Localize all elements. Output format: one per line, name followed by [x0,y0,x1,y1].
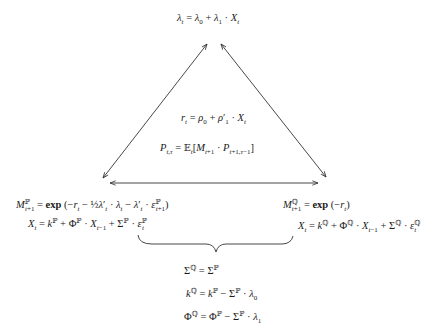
equation-phi-relation: Φℚ = Φℙ − Σℙ · λ1 [184,312,261,323]
equation-dynamics-physical: Xt = kℙ + Φℙ · Xt−1 + Σℙ · εℙt [28,219,144,230]
equation-market-price-of-risk: λt = λ0 + λ1 · Xt [177,13,239,24]
equation-sdf-physical: Mℙt+1 = exp (−rt − ½λ′t · λt − λ′t · εℙt… [16,200,169,211]
equation-bond-price: Pt,τ = 𝔼t[Mt+1 · Pt+1,τ−1] [160,143,254,154]
edge-top-right [221,44,326,177]
equation-dynamics-risk-neutral: Xt = kℚ + Φℚ · Xt−1 + Σℚ · εℚt [298,221,416,232]
equation-k-relation: kℚ = kℙ − Σℙ · λ0 [186,289,257,300]
diagram-lines [0,0,433,332]
equation-sdf-risk-neutral: Mℚt+1 = exp (−rt) [283,200,350,211]
edge-top-left [103,44,207,178]
equation-sigma-relation: Σℚ = Σℙ [184,266,219,277]
underbrace [138,235,293,252]
equation-short-rate: rt = ρ0 + ρ′1 · Xt [181,113,246,124]
